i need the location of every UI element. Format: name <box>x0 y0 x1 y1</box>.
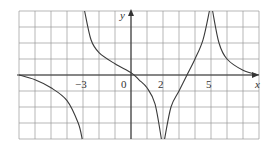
graph: y x −3 0 2 5 <box>0 0 280 148</box>
y-axis-label: y <box>119 9 125 21</box>
tick-label-0: 0 <box>121 78 127 90</box>
tick-label-2: 2 <box>158 78 164 90</box>
tick-label-neg3: −3 <box>75 78 87 90</box>
x-axis-label: x <box>254 78 260 90</box>
tick-label-5: 5 <box>206 78 212 90</box>
y-axis-arrow-icon <box>128 9 134 16</box>
